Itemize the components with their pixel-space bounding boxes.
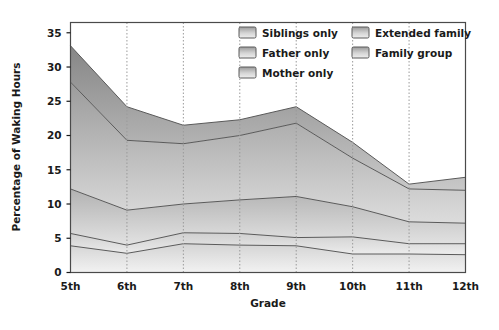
legend-item-family-group[interactable]: Family group xyxy=(352,47,453,59)
legend-label: Father only xyxy=(262,47,329,59)
x-tick-label-12th: 12th xyxy=(452,280,479,292)
x-axis-title: Grade xyxy=(250,297,286,309)
y-tick-label: 30 xyxy=(47,61,62,73)
x-tick-label-8th: 8th xyxy=(230,280,250,292)
y-tick-label: 20 xyxy=(47,129,62,141)
legend-item-mother-only[interactable]: Mother only xyxy=(239,67,333,79)
legend-swatch xyxy=(239,67,256,78)
legend-label: Family group xyxy=(375,47,453,59)
stacked-area-chart: 05101520253035 5th6th7th8th9th10th11th12… xyxy=(0,0,499,330)
chart-figure: 05101520253035 5th6th7th8th9th10th11th12… xyxy=(0,0,499,330)
legend-label: Mother only xyxy=(262,67,333,79)
x-tick-label-6th: 6th xyxy=(117,280,137,292)
legend-swatch xyxy=(352,47,369,58)
legend-item-siblings-only[interactable]: Siblings only xyxy=(239,27,338,39)
y-tick-label: 25 xyxy=(47,95,62,107)
y-tick-label: 5 xyxy=(54,232,61,244)
legend-swatch xyxy=(352,27,369,38)
legend-item-father-only[interactable]: Father only xyxy=(239,47,329,59)
legend-swatch xyxy=(239,27,256,38)
legend-label: Siblings only xyxy=(262,27,338,39)
y-tick-label: 10 xyxy=(47,198,62,210)
y-tick-label: 35 xyxy=(47,27,62,39)
x-tick-label-5th: 5th xyxy=(61,280,81,292)
x-tick-label-10th: 10th xyxy=(339,280,366,292)
y-axis-title: Percentage of Waking Hours xyxy=(10,62,22,231)
legend-label: Extended family xyxy=(375,27,471,39)
x-tick-label-11th: 11th xyxy=(396,280,423,292)
y-tick-label: 0 xyxy=(54,266,61,278)
x-tick-label-7th: 7th xyxy=(173,280,193,292)
legend-swatch xyxy=(239,47,256,58)
x-tick-label-9th: 9th xyxy=(286,280,306,292)
y-tick-label: 15 xyxy=(47,164,62,176)
